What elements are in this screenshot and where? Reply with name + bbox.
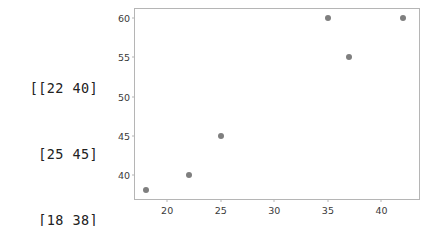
array-line: [18 38] [0,209,110,226]
x-tick-mark [381,199,382,202]
plot-axes-area: 4045505560 2025303540 [134,8,420,200]
array-line: [[22 40] [0,77,110,99]
scatter-point [346,54,352,60]
y-tick-mark [132,174,135,175]
x-tick-label: 20 [161,205,173,216]
y-tick-label: 55 [118,52,130,63]
scatter-point [143,187,149,193]
scatter-plot-figure: 4045505560 2025303540 [100,0,426,226]
x-tick-mark [220,199,221,202]
y-tick-label: 50 [118,91,130,102]
y-tick-mark [132,135,135,136]
y-tick-mark [132,96,135,97]
y-tick-label: 40 [118,169,130,180]
y-tick-label: 60 [118,13,130,24]
scatter-point [325,15,331,21]
y-tick-label: 45 [118,130,130,141]
x-tick-label: 25 [215,205,227,216]
x-tick-label: 35 [322,205,334,216]
scatter-point [218,133,224,139]
scatter-point [186,172,192,178]
x-tick-mark [327,199,328,202]
x-tick-mark [167,199,168,202]
x-tick-label: 40 [375,205,387,216]
y-tick-mark [132,18,135,19]
x-tick-mark [274,199,275,202]
x-tick-label: 30 [268,205,280,216]
scatter-point [400,15,406,21]
array-line: [25 45] [0,143,110,165]
y-tick-mark [132,57,135,58]
array-output-text: [[22 40] [25 45] [18 38] [35 60] [37 55]… [0,33,110,226]
